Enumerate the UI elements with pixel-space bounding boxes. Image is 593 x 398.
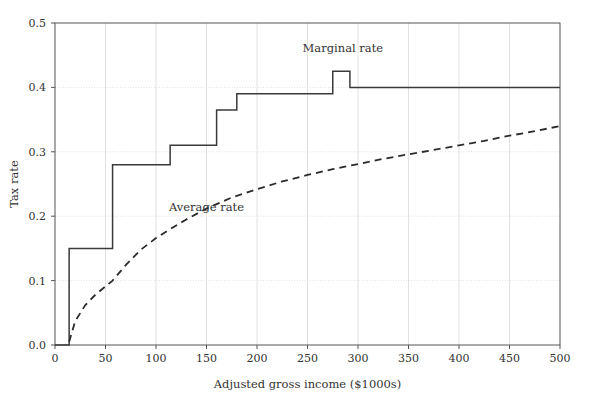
chart-canvas: 050100150200250300350400450500 0.00.10.2… bbox=[0, 0, 593, 398]
x-tick-label: 350 bbox=[398, 352, 419, 365]
y-axis-title: Tax rate bbox=[7, 160, 21, 208]
y-tick-label: 0.4 bbox=[29, 81, 47, 94]
y-tick-label: 0.5 bbox=[29, 17, 47, 30]
x-tick-label: 50 bbox=[99, 352, 113, 365]
chart-background bbox=[0, 0, 593, 398]
y-tick-label: 0.0 bbox=[29, 339, 47, 352]
tax-rate-chart: 050100150200250300350400450500 0.00.10.2… bbox=[0, 0, 593, 398]
x-tick-label: 150 bbox=[196, 352, 217, 365]
marginal-rate-label: Marginal rate bbox=[303, 41, 384, 55]
y-tick-label: 0.3 bbox=[29, 146, 47, 159]
x-tick-label: 450 bbox=[499, 352, 520, 365]
x-tick-label: 400 bbox=[449, 352, 470, 365]
x-axis-title: Adjusted gross income ($1000s) bbox=[213, 377, 402, 391]
average-rate-label: Average rate bbox=[168, 200, 244, 214]
x-tick-label: 500 bbox=[550, 352, 571, 365]
y-tick-label: 0.2 bbox=[29, 210, 47, 223]
y-tick-label: 0.1 bbox=[29, 275, 47, 288]
x-tick-label: 100 bbox=[146, 352, 167, 365]
x-tick-label: 250 bbox=[297, 352, 318, 365]
x-tick-label: 0 bbox=[52, 352, 59, 365]
x-tick-label: 300 bbox=[348, 352, 369, 365]
x-tick-label: 200 bbox=[247, 352, 268, 365]
